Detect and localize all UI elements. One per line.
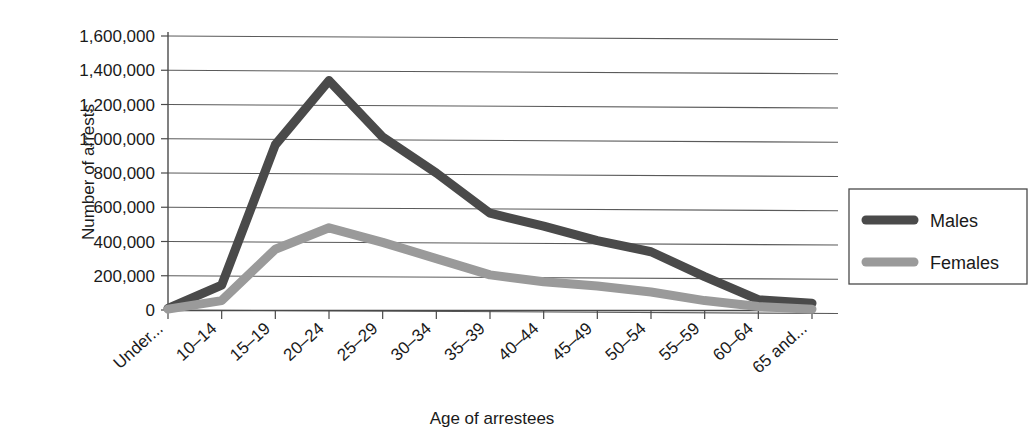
y-axis-title: Number of arrests [79, 104, 98, 240]
x-category-label: 55–59 [655, 319, 703, 365]
y-tick-label: 600,000 [94, 198, 155, 217]
gridline [168, 207, 838, 211]
series-lines-group [168, 81, 812, 310]
x-axis-title: Age of arrestees [430, 409, 555, 428]
y-tick-label: 200,000 [94, 267, 155, 286]
x-category-label: 40–44 [494, 319, 542, 365]
x-category-label: 65 and... [749, 319, 811, 377]
x-category-label: 25–29 [333, 319, 381, 365]
arrests-by-age-line-chart: 1,600,0001,400,0001,200,0001,000,000800,… [0, 0, 1036, 445]
legend-label-females: Females [930, 253, 999, 273]
x-category-label: 35–39 [441, 319, 489, 365]
series-line-females [168, 228, 812, 309]
x-category-label: 15–19 [226, 319, 274, 365]
y-tick-label: 1,600,000 [79, 27, 155, 46]
gridline [168, 139, 838, 143]
x-category-label: 50–54 [602, 319, 650, 365]
x-category-label: 20–24 [280, 319, 328, 365]
gridline [168, 105, 838, 109]
y-tick-label: 800,000 [94, 164, 155, 183]
legend-label-males: Males [930, 211, 978, 231]
x-category-label: 10–14 [172, 319, 220, 365]
y-tick-label: 0 [146, 301, 155, 320]
y-axis-tick-marks [161, 36, 168, 310]
gridline [168, 36, 838, 40]
gridline [168, 242, 838, 246]
x-category-label: Under... [110, 319, 167, 373]
x-category-label: 45–49 [548, 319, 596, 365]
y-tick-label: 1,400,000 [79, 61, 155, 80]
x-axis-category-labels: Under...10–1415–1920–2425–2930–3435–3940… [110, 319, 811, 377]
gridline [168, 70, 838, 74]
x-category-label: 30–34 [387, 319, 435, 365]
x-axis-tick-marks [168, 310, 812, 319]
y-tick-label: 400,000 [94, 233, 155, 252]
x-category-label: 60–64 [709, 319, 757, 365]
chart-canvas: 1,600,0001,400,0001,200,0001,000,000800,… [0, 0, 1036, 445]
